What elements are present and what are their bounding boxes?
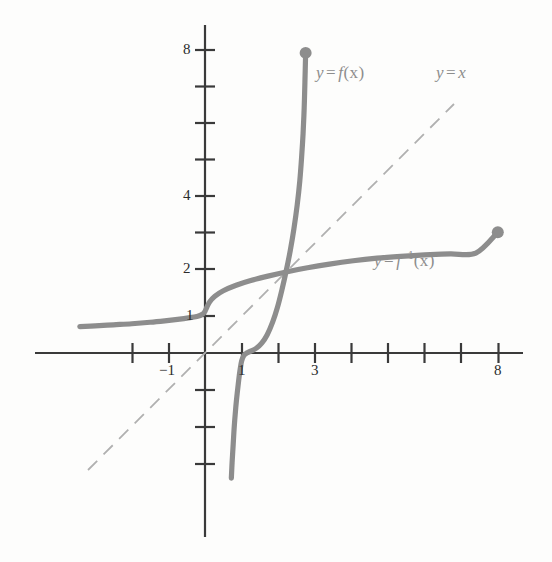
- label-identity-fn: x: [458, 63, 466, 82]
- x-tick-label-minus-1: −1: [159, 362, 175, 379]
- label-f-y: y: [316, 63, 324, 82]
- label-y-equals-f-inverse-of-x: y=f−1(x): [374, 249, 435, 271]
- y-tick-label-2: 2: [183, 260, 191, 277]
- y-tick-label-1: 1: [186, 307, 194, 324]
- curve-f-inverse-endpoint-dot: [492, 226, 504, 238]
- label-finv-y: y: [374, 251, 382, 270]
- curve-f-endpoint-dot: [300, 47, 312, 59]
- plot-canvas: [0, 0, 552, 562]
- label-identity-y: y: [436, 63, 444, 82]
- x-tick-label-1: 1: [238, 362, 246, 379]
- identity-line: [88, 104, 454, 470]
- y-tick-label-8: 8: [183, 41, 191, 58]
- label-finv-exponent: −1: [401, 249, 413, 262]
- y-tick-label-4: 4: [183, 187, 191, 204]
- label-finv-arg: (x): [414, 251, 435, 270]
- label-f-arg: (x): [343, 63, 364, 82]
- function-inverse-graph-figure: 8 4 2 1 −1 1 3 8 y=f(x) y=x y=f−1(x): [0, 0, 552, 562]
- label-y-equals-f-of-x: y=f(x): [316, 63, 365, 83]
- x-tick-label-8: 8: [494, 362, 502, 379]
- axes-group: [35, 25, 523, 537]
- label-finv-equals: =: [382, 251, 396, 270]
- label-y-equals-x: y=x: [436, 63, 466, 83]
- x-tick-label-3: 3: [311, 362, 319, 379]
- curve-f-of-x: [231, 53, 305, 478]
- label-f-equals: =: [324, 63, 338, 82]
- label-identity-equals: =: [444, 63, 458, 82]
